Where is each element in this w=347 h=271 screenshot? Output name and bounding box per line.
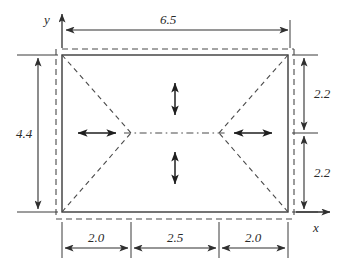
dim-label-left: 4.4 [16, 126, 33, 141]
dim-label-bottom-left: 2.0 [88, 230, 105, 245]
dim-label-bottom-right: 2.0 [245, 230, 262, 245]
dimension-diagram: y x 6.5 [0, 0, 347, 271]
dimension-right [292, 55, 318, 212]
dim-label-right-upper: 2.2 [314, 86, 331, 101]
dashed-offset-outline [56, 49, 294, 219]
dim-label-bottom-middle: 2.5 [167, 230, 184, 245]
diagonal-bottom-left [62, 133, 131, 212]
diagonal-top-left [62, 55, 131, 133]
diagonal-bottom-right [219, 133, 288, 212]
dimension-top [66, 20, 290, 48]
y-axis-label: y [42, 12, 50, 27]
diagram-canvas: y x 6.5 [0, 0, 347, 271]
diagonal-top-right [219, 55, 288, 133]
dim-label-right-lower: 2.2 [314, 165, 331, 180]
x-axis-label: x [312, 220, 319, 235]
dim-label-top: 6.5 [160, 12, 177, 27]
